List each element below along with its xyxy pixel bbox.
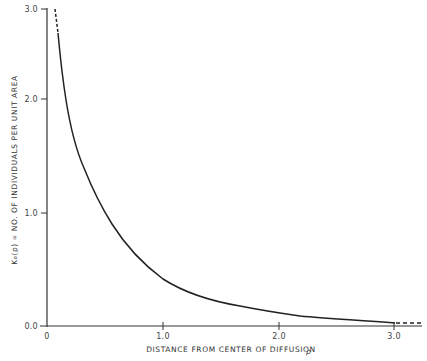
y-tick-label: 3.0 [24,5,38,14]
curve-dashed-top [55,9,58,33]
y-tick-label: 2.0 [24,95,38,104]
y-axis-title: K₀(ρ) ∝ NO. OF INDIVIDUALS PER UNIT AREA [10,75,19,265]
x-axis-symbol: ρ [306,347,311,356]
x-tick-label: 0 [44,332,49,341]
y-tick-label: 1.0 [24,209,38,218]
curve-solid [58,33,395,323]
x-tick-label: 1.0 [156,332,170,341]
x-tick-label: 2.0 [272,332,286,341]
diffusion-chart: 3.0 2.0 1.0 0.0 0 1.0 2.0 3.0 DISTANCE F… [0,0,427,361]
x-axis-title: DISTANCE FROM CENTER OF DIFFUSION [146,345,316,354]
y-tick-label: 0.0 [24,322,38,331]
x-ticks: 0 1.0 2.0 3.0 [44,322,401,341]
x-tick-label: 3.0 [387,332,401,341]
y-ticks: 3.0 2.0 1.0 0.0 [24,5,47,331]
